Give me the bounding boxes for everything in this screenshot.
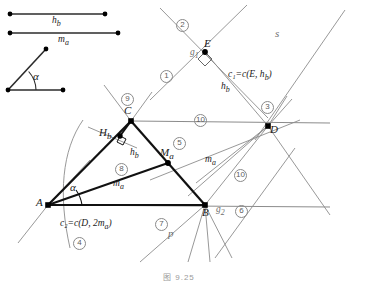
- given-hb-label: hb: [52, 16, 61, 28]
- step-6: 6: [235, 205, 248, 218]
- step-7: 7: [155, 218, 168, 231]
- line-label-ma-right-sub: a: [212, 158, 216, 167]
- step-3: 3: [261, 101, 274, 114]
- line-label-g1: g1: [190, 48, 199, 60]
- step-5: 5: [173, 137, 186, 150]
- angle-label-alpha-at-a: α: [70, 182, 76, 193]
- step-8: 8: [115, 163, 128, 176]
- given-ma-sub: a: [65, 38, 69, 47]
- point-label-A: A: [36, 197, 43, 208]
- given-ma-label: ma: [58, 35, 69, 47]
- construction-line-9-right: [131, 92, 152, 121]
- point-label-B: B: [202, 207, 209, 218]
- given-hb-sub: b: [57, 19, 61, 28]
- line-label-hb-inner: hb: [130, 148, 139, 160]
- circle-label-c1: c₁=c(E, hb): [228, 70, 272, 82]
- construction-line-11: [215, 148, 295, 258]
- line-label-hb-outer: hb: [221, 82, 230, 94]
- construction-line-10-horizontal: [131, 121, 330, 123]
- point-label-Hb-sub: b: [107, 131, 112, 141]
- step-4: 4: [73, 237, 86, 250]
- point-label-C: C: [124, 105, 131, 116]
- step-1: 1: [160, 70, 173, 83]
- step-10: 10: [194, 114, 207, 127]
- line-label-g2: g2: [216, 205, 225, 217]
- step-2: 2: [176, 19, 189, 32]
- line-label-g1-sub: 1: [195, 51, 199, 60]
- construction-line-through-hb: [88, 127, 137, 148]
- line-label-ma-inner: ma: [113, 179, 124, 191]
- point-label-Hb: Hb: [99, 127, 112, 141]
- angle-arc-at-a: [76, 190, 82, 205]
- given-angle-alpha-label: α: [33, 71, 39, 82]
- line-label-p: p: [168, 228, 174, 239]
- line-label-s: s: [275, 28, 279, 39]
- step-11: 10: [234, 169, 247, 182]
- point-label-Ma: Ma: [160, 147, 174, 161]
- construction-line-hb-E-to-D: [205, 52, 268, 126]
- line-label-ma-right: ma: [205, 155, 216, 167]
- geometric-construction-figure: hb ma α A B C D E Hb Ma g1 g2 s p hb hb …: [0, 0, 381, 284]
- line-label-hb-outer-sub: b: [226, 85, 230, 94]
- circle-label-c2: c₂=c(D, 2ma): [60, 219, 112, 231]
- step-9: 9: [121, 93, 134, 106]
- median-a-to-ma: [48, 163, 168, 205]
- line-label-hb-inner-sub: b: [135, 151, 139, 160]
- line-label-ma-inner-sub: a: [120, 182, 124, 191]
- line-label-g2-sub: 2: [221, 208, 225, 217]
- point-label-Ma-sub: a: [169, 151, 174, 161]
- point-label-D: D: [270, 124, 278, 135]
- construction-line-s-extension: [268, 126, 330, 215]
- point-label-E: E: [204, 38, 211, 49]
- figure-caption: 图 9.25: [163, 274, 195, 282]
